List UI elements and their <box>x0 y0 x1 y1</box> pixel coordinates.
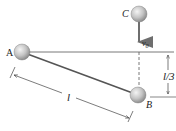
label-b: B <box>146 99 152 110</box>
rod-length-dimension-right <box>76 98 129 118</box>
rod-length-label: l <box>67 91 70 103</box>
ball-b <box>130 87 146 103</box>
rod-length-extension-b <box>128 111 133 122</box>
rigid-body-diagram: l/3 l v0 A B C <box>0 0 176 131</box>
rod-length-dimension-left <box>14 75 62 93</box>
label-a: A <box>6 47 14 58</box>
ball-a <box>14 44 30 60</box>
rod-ab <box>22 52 138 95</box>
label-c: C <box>122 8 129 19</box>
drop-height-label: l/3 <box>163 70 175 82</box>
velocity-label: v0 <box>142 39 149 49</box>
ball-c <box>131 6 147 22</box>
rod-length-extension-a <box>10 67 15 78</box>
